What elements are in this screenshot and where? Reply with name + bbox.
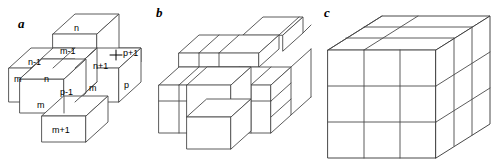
panel-c: c	[318, 0, 497, 164]
panel-b: b	[150, 0, 320, 164]
panel-b-drawing	[150, 0, 320, 164]
label-left-n-minus: n-1	[28, 58, 41, 67]
label-front-m: m	[37, 101, 45, 110]
label-center-p-minus: p-1	[60, 88, 73, 97]
label-back-p-plus: p+1	[123, 49, 138, 58]
label-right-n-plus: n+1	[93, 62, 108, 71]
cube-group-top	[179, 35, 279, 67]
panel-c-drawing	[318, 0, 497, 164]
block-front-face	[328, 50, 436, 158]
label-right-p: p	[124, 81, 129, 90]
panel-a: a	[0, 0, 155, 164]
figure-container: a	[0, 0, 497, 164]
label-top-m-minus: m-1	[60, 47, 76, 56]
label-left-m: m	[14, 75, 22, 84]
label-center-n: n	[44, 75, 49, 84]
label-right-m: m	[89, 84, 97, 93]
label-top-n: n	[74, 24, 79, 33]
label-bottom-m-plus: m+1	[52, 126, 70, 135]
